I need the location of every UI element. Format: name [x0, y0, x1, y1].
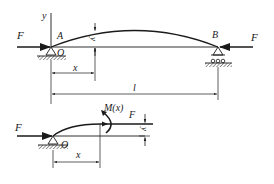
point-a-label: A: [56, 30, 64, 41]
top-figure: F F y A O B y x l: [16, 10, 258, 104]
column-buckling-diagram: F F y A O B y x l: [0, 0, 274, 184]
origin-o-label: O: [57, 47, 64, 58]
deflected-beam-curve: [51, 31, 218, 48]
force-right-label: F: [250, 31, 258, 43]
deflection-y-label: y: [89, 36, 99, 41]
moment-label: M(x): [103, 102, 124, 114]
bottom-force-right-label: F: [128, 109, 136, 120]
dim-l-label: l: [133, 82, 136, 93]
bottom-force-left-label: F: [14, 121, 22, 133]
bottom-force-right-arrow-icon: [102, 122, 108, 127]
bottom-figure: F O M(x) F y x: [14, 102, 153, 168]
dim-x-label: x: [72, 62, 78, 73]
force-left-label: F: [16, 29, 24, 41]
bottom-dim-x-label: x: [75, 149, 81, 160]
bottom-deflection-y-label: y: [140, 126, 150, 131]
bottom-origin-o-label: O: [61, 139, 68, 150]
point-b-label: B: [212, 29, 218, 40]
moment-arrow-icon: [101, 110, 111, 133]
axis-y-label: y: [41, 10, 47, 21]
roller-support-b-icon: [205, 47, 232, 67]
bottom-deflected-curve: [53, 124, 100, 136]
